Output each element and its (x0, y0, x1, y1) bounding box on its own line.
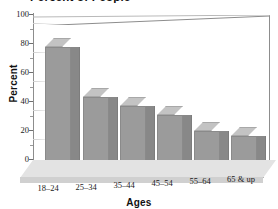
x-axis-label-18-24: 18–24 (30, 184, 66, 193)
top-edge-shape (33, 15, 270, 25)
y-axis-label-100: 100 (3, 10, 29, 19)
bar-front-face (45, 47, 71, 165)
bar-side-face (109, 97, 118, 165)
y-tick-70 (30, 58, 33, 59)
y-tick-10 (30, 145, 33, 146)
x-axis-label-35-44: 35–44 (106, 181, 142, 190)
y-tick-80 (29, 43, 33, 44)
x-axis-label-25-34: 25–34 (68, 183, 104, 192)
y-tick-30 (30, 116, 33, 117)
y-tick-90 (30, 29, 33, 30)
plot-area (33, 13, 270, 165)
y-axis-label-20: 20 (3, 126, 29, 135)
y-tick-20 (29, 130, 33, 131)
y-tick-100 (29, 14, 33, 15)
y-tick-40 (29, 101, 33, 102)
chart-title: Percent of People (30, 0, 230, 5)
bar-35-44 (120, 106, 146, 165)
bar-25-34 (83, 97, 109, 165)
bar-front-face (83, 97, 109, 165)
x-axis-label-55-64: 55–64 (182, 177, 218, 186)
bar-front-face (120, 106, 146, 165)
bar-side-face (146, 106, 155, 165)
bar-front-face (157, 115, 183, 165)
x-axis-label-65-and-up: 65 & up (218, 175, 264, 184)
chart-top-edge (33, 13, 270, 25)
chart-right-axis-line (269, 15, 270, 165)
bar-45-54 (157, 115, 183, 165)
y-axis-label-80: 80 (3, 39, 29, 48)
x-axis-label-45-54: 45–54 (144, 179, 180, 188)
bar-18-24 (45, 47, 71, 165)
y-tick-50 (30, 87, 33, 88)
bar-chart: Percent of People (0, 0, 278, 209)
bar-side-face (183, 115, 192, 165)
y-axis-title: Percent (8, 54, 19, 114)
bar-side-face (71, 47, 80, 165)
x-axis-title: Ages (0, 197, 278, 209)
y-tick-60 (29, 72, 33, 73)
